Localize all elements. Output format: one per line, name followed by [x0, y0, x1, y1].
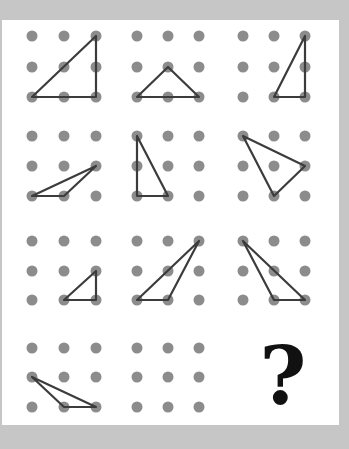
grid-dot [238, 92, 249, 103]
puzzle-cell [132, 131, 205, 202]
grid-dot [132, 402, 143, 413]
puzzle-cell [132, 236, 205, 306]
grid-dot [91, 131, 102, 142]
grid-dot [300, 266, 311, 277]
puzzle-cell [27, 31, 102, 103]
grid-dot [269, 236, 280, 247]
grid-dot [27, 236, 38, 247]
grid-dot [194, 343, 205, 354]
grid-dot [194, 266, 205, 277]
grid-dot [163, 236, 174, 247]
grid-dot [59, 372, 70, 383]
puzzle-cell [238, 31, 311, 103]
grid-dot [91, 372, 102, 383]
grid-dot [300, 131, 311, 142]
puzzle-cell [132, 31, 205, 103]
grid-dot [269, 131, 280, 142]
grid-dot [194, 295, 205, 306]
puzzle-cell [27, 131, 102, 202]
triangle-shape [137, 241, 199, 300]
grid-dot [163, 372, 174, 383]
puzzle-cell [27, 343, 102, 413]
grid-dot [163, 161, 174, 172]
grid-dot [238, 31, 249, 42]
grid-dot [163, 31, 174, 42]
grid-dot [194, 131, 205, 142]
grid-dot [27, 62, 38, 73]
grid-dot [238, 161, 249, 172]
grid-dot [194, 161, 205, 172]
grid-dot [91, 191, 102, 202]
grid-dot [59, 343, 70, 354]
grid-dot [194, 372, 205, 383]
grid-dot [59, 161, 70, 172]
grid-dot [132, 31, 143, 42]
puzzle-cell [27, 236, 102, 306]
grid-dot [59, 236, 70, 247]
grid-dot [27, 402, 38, 413]
grid-dot [27, 31, 38, 42]
grid-dot [132, 266, 143, 277]
question-mark: ? [258, 336, 308, 416]
grid-dot [132, 372, 143, 383]
triangle-shape [32, 36, 96, 97]
grid-dot [59, 266, 70, 277]
grid-dot [27, 131, 38, 142]
grid-dot [27, 343, 38, 354]
grid-dot [91, 343, 102, 354]
grid-dot [27, 266, 38, 277]
grid-dot [194, 31, 205, 42]
grid-dot [163, 343, 174, 354]
triangle-shape [243, 241, 305, 300]
grid-dot [163, 402, 174, 413]
grid-dot [132, 343, 143, 354]
grid-dot [194, 402, 205, 413]
grid-dot [194, 191, 205, 202]
grid-dot [238, 191, 249, 202]
puzzle-cell [132, 343, 205, 413]
grid-dot [27, 295, 38, 306]
puzzle-cell [238, 236, 311, 306]
grid-dot [132, 236, 143, 247]
grid-dot [269, 161, 280, 172]
grid-dot [269, 31, 280, 42]
grid-dot [238, 62, 249, 73]
grid-dot [163, 131, 174, 142]
grid-dot [238, 295, 249, 306]
grid-dot [27, 161, 38, 172]
puzzle-cell [238, 131, 311, 202]
grid-dot [238, 266, 249, 277]
grid-dot [59, 131, 70, 142]
grid-dot [59, 31, 70, 42]
grid-dot [269, 62, 280, 73]
grid-dot [300, 236, 311, 247]
grid-dot [300, 191, 311, 202]
grid-dot [91, 236, 102, 247]
triangle-shape [64, 271, 96, 300]
grid-dot [194, 62, 205, 73]
grid-dot [132, 62, 143, 73]
